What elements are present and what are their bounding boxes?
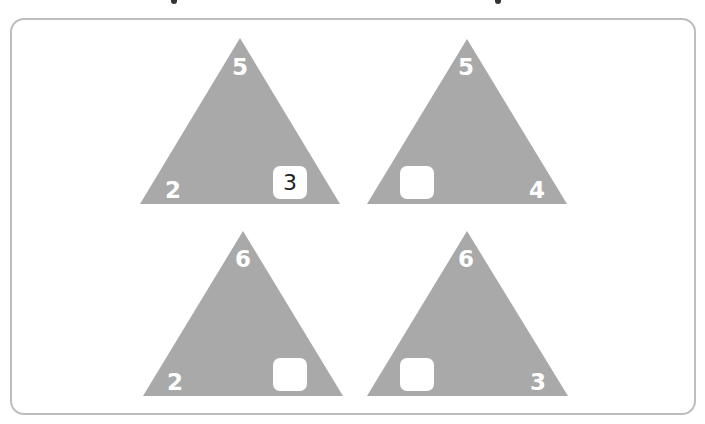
triangle-2-top-number: 5 xyxy=(458,56,474,79)
triangle-1-answer-box[interactable]: 3 xyxy=(273,166,307,199)
triangle-2-answer-box[interactable] xyxy=(400,166,434,199)
triangle-3-left-number: 2 xyxy=(167,371,183,394)
triangles-layer xyxy=(0,0,705,424)
triangle-4-answer-box[interactable] xyxy=(400,358,434,391)
triangle-3-top-number: 6 xyxy=(235,248,251,271)
triangle-1-left-number: 2 xyxy=(165,179,181,202)
triangle-4-top-number: 6 xyxy=(458,248,474,271)
triangle-3-answer-box[interactable] xyxy=(273,358,307,391)
triangle-1-top-number: 5 xyxy=(232,56,248,79)
triangle-2-right-number: 4 xyxy=(529,179,545,202)
triangle-4-right-number: 3 xyxy=(530,371,546,394)
